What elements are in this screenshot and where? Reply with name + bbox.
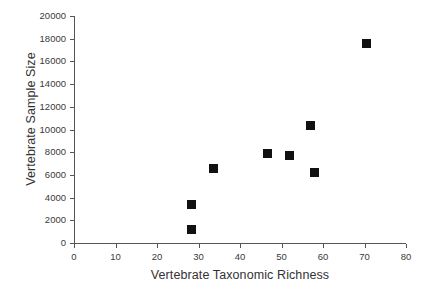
data-point: [187, 225, 196, 234]
x-axis-tick: [365, 244, 366, 248]
x-axis-tick-label: 50: [262, 252, 302, 262]
x-axis-tick: [74, 244, 75, 248]
y-axis-tick: [70, 39, 74, 40]
data-point: [263, 149, 272, 158]
y-axis-tick: [70, 61, 74, 62]
x-axis-tick-label: 0: [54, 252, 94, 262]
x-axis-tick-label: 10: [96, 252, 136, 262]
y-axis-tick-label: 10000: [0, 125, 66, 135]
y-axis-line: [74, 16, 75, 244]
y-axis-tick: [70, 84, 74, 85]
x-axis-title: Vertebrate Taxonomic Richness: [74, 268, 406, 282]
y-axis-tick-label: 14000: [0, 79, 66, 89]
y-axis-tick-label: 2000: [0, 215, 66, 225]
y-axis-tick: [70, 16, 74, 17]
y-axis-tick: [70, 130, 74, 131]
x-axis-tick: [323, 244, 324, 248]
y-axis-tick-label: 8000: [0, 147, 66, 157]
y-axis-tick-label: 12000: [0, 102, 66, 112]
x-axis-tick-label: 60: [303, 252, 343, 262]
y-axis-tick-label: 18000: [0, 34, 66, 44]
y-axis-tick: [70, 175, 74, 176]
data-point: [209, 164, 218, 173]
data-point: [306, 121, 315, 130]
x-axis-tick: [157, 244, 158, 248]
y-axis-tick-label: 6000: [0, 170, 66, 180]
data-point: [310, 168, 319, 177]
x-axis-tick-label: 40: [220, 252, 260, 262]
y-axis-tick-label: 16000: [0, 56, 66, 66]
x-axis-tick: [199, 244, 200, 248]
x-axis-tick: [282, 244, 283, 248]
x-axis-tick-label: 80: [386, 252, 426, 262]
x-axis-tick-label: 70: [345, 252, 385, 262]
x-axis-tick: [116, 244, 117, 248]
y-axis-tick: [70, 220, 74, 221]
data-point: [362, 39, 371, 48]
scatter-plot-figure: Vertebrate Sample Size Vertebrate Taxono…: [0, 0, 426, 299]
y-axis-tick: [70, 152, 74, 153]
data-point: [187, 200, 196, 209]
x-axis-tick: [240, 244, 241, 248]
x-axis-tick-label: 30: [179, 252, 219, 262]
y-axis-tick-label: 4000: [0, 193, 66, 203]
y-axis-tick: [70, 107, 74, 108]
y-axis-tick-label: 0: [0, 238, 66, 248]
x-axis-tick-label: 20: [137, 252, 177, 262]
data-point: [285, 151, 294, 160]
y-axis-tick-label: 20000: [0, 11, 66, 21]
y-axis-tick: [70, 198, 74, 199]
x-axis-tick: [406, 244, 407, 248]
